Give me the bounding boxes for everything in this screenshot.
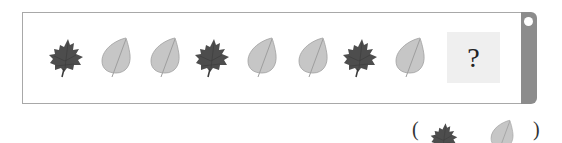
answer-option-maple-leaf-icon[interactable] xyxy=(428,120,460,143)
round-leaf-icon xyxy=(390,35,430,81)
answer-option-round-leaf-icon[interactable] xyxy=(486,118,518,143)
maple-leaf-icon xyxy=(340,35,380,81)
round-leaf-icon xyxy=(293,35,333,81)
maple-leaf-icon xyxy=(46,35,86,81)
round-leaf-icon xyxy=(145,35,185,81)
question-mark: ? xyxy=(467,42,479,74)
answer-close-paren: ) xyxy=(533,118,540,141)
hole-punch-icon xyxy=(524,17,533,26)
maple-leaf-icon xyxy=(192,35,232,81)
answer-open-paren: ( xyxy=(412,118,419,141)
round-leaf-icon xyxy=(242,35,282,81)
round-leaf-icon xyxy=(96,35,136,81)
frame-side-bar xyxy=(521,12,537,104)
question-box[interactable]: ? xyxy=(447,32,500,83)
